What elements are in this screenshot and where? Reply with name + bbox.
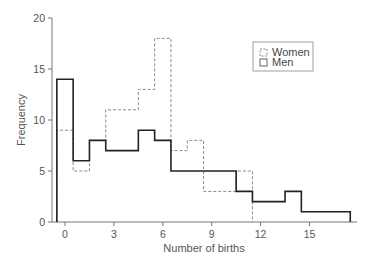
y-tick-label: 5 xyxy=(39,165,45,177)
x-tick-label: 12 xyxy=(255,228,267,240)
y-tick-label: 0 xyxy=(39,216,45,228)
y-axis: 05101520 xyxy=(33,12,52,228)
y-tick-label: 10 xyxy=(33,114,45,126)
y-axis-title: Frequency xyxy=(15,94,27,146)
x-tick-label: 9 xyxy=(209,228,215,240)
x-tick-label: 6 xyxy=(160,228,166,240)
x-tick-label: 15 xyxy=(304,228,316,240)
x-tick-label: 0 xyxy=(62,228,68,240)
legend: Women Men xyxy=(253,42,313,71)
x-axis-title: Number of births xyxy=(163,242,245,254)
y-tick-label: 20 xyxy=(33,12,45,24)
x-axis: 03691215 xyxy=(52,222,357,240)
histogram-chart: 05101520 03691215 Number of births Frequ… xyxy=(0,0,371,264)
series-men xyxy=(57,79,350,222)
legend-men-label: Men xyxy=(272,56,293,68)
x-tick-label: 3 xyxy=(111,228,117,240)
y-tick-label: 15 xyxy=(33,63,45,75)
